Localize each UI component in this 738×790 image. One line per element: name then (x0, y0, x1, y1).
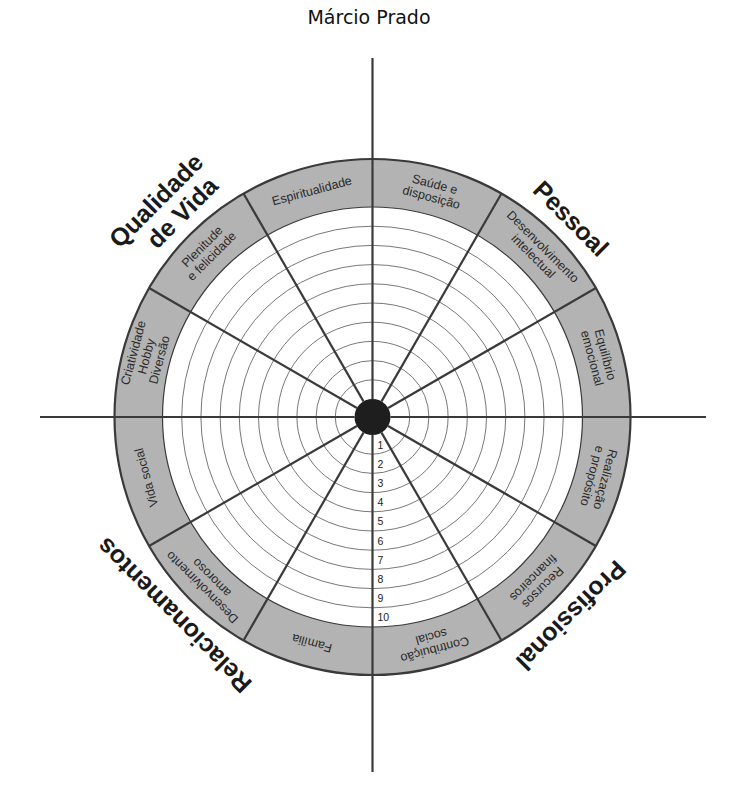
ring-number: 10 (378, 611, 390, 623)
ring-number: 8 (378, 573, 384, 585)
ring-number: 9 (378, 592, 384, 604)
ring-number: 6 (378, 535, 384, 547)
ring-number: 5 (378, 515, 384, 527)
ring-number: 1 (378, 439, 384, 451)
ring-number: 3 (378, 477, 384, 489)
wheel-of-life-diagram: Saúde edisposiçãoDesenvolvimentointelect… (0, 0, 738, 790)
ring-number: 4 (378, 496, 384, 508)
center-hub (355, 399, 391, 435)
ring-number: 2 (378, 458, 384, 470)
ring-number: 7 (378, 554, 384, 566)
